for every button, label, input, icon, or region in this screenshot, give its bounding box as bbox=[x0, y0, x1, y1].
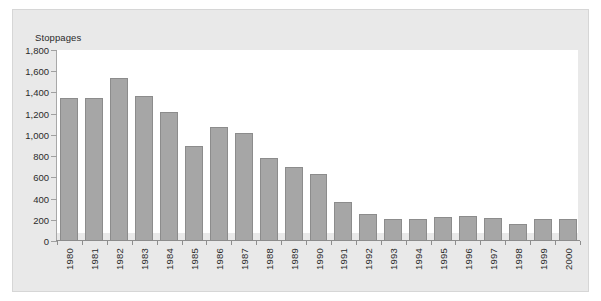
x-axis-tick bbox=[157, 241, 158, 245]
bar-item bbox=[135, 50, 153, 241]
x-axis-tick-label: 2000 bbox=[563, 248, 574, 270]
x-axis-tick-label: 1994 bbox=[413, 248, 424, 270]
bar-item bbox=[484, 50, 502, 241]
bar-item bbox=[409, 50, 427, 241]
x-axis-tick bbox=[480, 241, 481, 245]
x-axis-tick-label: 1992 bbox=[363, 248, 374, 270]
x-axis-tick bbox=[455, 241, 456, 245]
x-axis-tick bbox=[331, 241, 332, 245]
bar-item bbox=[310, 50, 328, 241]
bar-item bbox=[185, 50, 203, 241]
x-axis-tick-label: 1989 bbox=[289, 248, 300, 270]
bar-item bbox=[210, 50, 228, 241]
chart-figure: Stoppages 02004006008001,0001,2001,4001,… bbox=[12, 9, 589, 292]
x-axis-tick bbox=[132, 241, 133, 245]
bar-item bbox=[459, 50, 477, 241]
y-axis-tick-label: 1,000 bbox=[13, 129, 49, 140]
y-axis-tick-label: 1,200 bbox=[13, 108, 49, 119]
bar bbox=[409, 219, 427, 241]
x-axis-tick-label: 1988 bbox=[264, 248, 275, 270]
x-axis-tick bbox=[505, 241, 506, 245]
y-axis-tick-label: 800 bbox=[13, 151, 49, 162]
bar-item bbox=[235, 50, 253, 241]
bar bbox=[210, 127, 228, 241]
x-axis-tick bbox=[356, 241, 357, 245]
x-axis-tick bbox=[281, 241, 282, 245]
x-axis-tick-label: 1984 bbox=[164, 248, 175, 270]
bar bbox=[160, 112, 178, 241]
x-axis-tick bbox=[406, 241, 407, 245]
bar bbox=[459, 216, 477, 241]
bar-series bbox=[57, 50, 580, 241]
x-axis-tick bbox=[530, 241, 531, 245]
bar bbox=[285, 167, 303, 241]
bar bbox=[60, 98, 78, 241]
y-axis-labels: 02004006008001,0001,2001,4001,6001,800 bbox=[13, 10, 49, 291]
bar-item bbox=[60, 50, 78, 241]
bar bbox=[235, 133, 253, 241]
y-axis-tick-label: 200 bbox=[13, 214, 49, 225]
x-axis-tick-label: 1991 bbox=[338, 248, 349, 270]
x-axis-tick-label: 1985 bbox=[189, 248, 200, 270]
bar-item bbox=[509, 50, 527, 241]
x-axis-tick-label: 1990 bbox=[314, 248, 325, 270]
bar bbox=[260, 158, 278, 241]
x-axis-tick bbox=[182, 241, 183, 245]
x-axis-tick bbox=[306, 241, 307, 245]
bar-item bbox=[260, 50, 278, 241]
bar bbox=[85, 98, 103, 241]
x-axis-tick-label: 1983 bbox=[139, 248, 150, 270]
x-axis-tick-label: 1987 bbox=[239, 248, 250, 270]
bar bbox=[384, 219, 402, 241]
x-axis-tick-label: 1997 bbox=[488, 248, 499, 270]
bar bbox=[185, 146, 203, 241]
bar-item bbox=[285, 50, 303, 241]
x-axis-tick bbox=[580, 241, 581, 245]
x-axis-tick-label: 1998 bbox=[513, 248, 524, 270]
y-axis-tick-label: 1,800 bbox=[13, 45, 49, 56]
bar bbox=[484, 218, 502, 241]
x-axis-tick-label: 1986 bbox=[214, 248, 225, 270]
x-axis-tick bbox=[231, 241, 232, 245]
x-axis-tick bbox=[431, 241, 432, 245]
bar bbox=[334, 202, 352, 241]
x-axis-tick-label: 1980 bbox=[64, 248, 75, 270]
x-axis-tick-label: 1981 bbox=[89, 248, 100, 270]
bar bbox=[135, 96, 153, 241]
x-axis-tick-label: 1982 bbox=[114, 248, 125, 270]
y-axis-tick-label: 1,400 bbox=[13, 87, 49, 98]
bar bbox=[559, 219, 577, 241]
bar-item bbox=[85, 50, 103, 241]
bar-item bbox=[434, 50, 452, 241]
bar bbox=[434, 217, 452, 241]
x-axis-tick bbox=[107, 241, 108, 245]
bar-item bbox=[559, 50, 577, 241]
bar bbox=[310, 174, 328, 241]
bar-item bbox=[334, 50, 352, 241]
bar bbox=[509, 224, 527, 242]
bar-item bbox=[384, 50, 402, 241]
x-axis-tick-label: 1996 bbox=[463, 248, 474, 270]
x-axis-tick bbox=[206, 241, 207, 245]
y-axis-tick-label: 600 bbox=[13, 172, 49, 183]
x-axis-tick-label: 1993 bbox=[388, 248, 399, 270]
x-axis-tick bbox=[381, 241, 382, 245]
bar bbox=[534, 219, 552, 241]
bar-item bbox=[110, 50, 128, 241]
x-axis-tick bbox=[555, 241, 556, 245]
x-axis-tick-label: 1995 bbox=[438, 248, 449, 270]
y-axis-tick-label: 400 bbox=[13, 193, 49, 204]
y-axis-tick-label: 0 bbox=[13, 236, 49, 247]
x-axis-tick bbox=[82, 241, 83, 245]
bar bbox=[359, 214, 377, 241]
x-axis-tick-label: 1999 bbox=[538, 248, 549, 270]
bar bbox=[110, 78, 128, 241]
x-axis-tick bbox=[57, 241, 58, 245]
bar-item bbox=[160, 50, 178, 241]
y-axis-tick-label: 1,600 bbox=[13, 66, 49, 77]
x-axis-tick bbox=[256, 241, 257, 245]
bar-item bbox=[534, 50, 552, 241]
bar-item bbox=[359, 50, 377, 241]
